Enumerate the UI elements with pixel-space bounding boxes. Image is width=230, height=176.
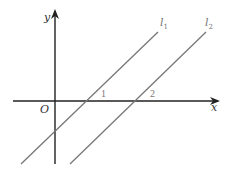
diagram-svg: y x O 1 2 l1 l2 — [0, 0, 230, 176]
x-intercept-label-1: 1 — [101, 88, 106, 99]
y-axis-label: y — [43, 11, 51, 24]
origin-label: O — [40, 103, 49, 116]
line-l2-label: l2 — [205, 16, 213, 31]
x-intercept-label-2: 2 — [150, 88, 155, 99]
line-l1-label: l1 — [160, 16, 168, 31]
x-axis-label: x — [211, 101, 218, 114]
coordinate-diagram: y x O 1 2 l1 l2 — [0, 0, 230, 176]
